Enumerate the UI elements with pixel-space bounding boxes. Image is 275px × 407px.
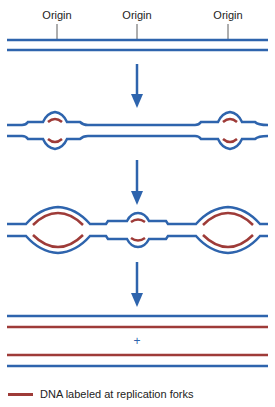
legend: DNA labeled at replication forks: [8, 388, 193, 400]
labeled-strand: [33, 235, 83, 247]
origin-label-1: Origin: [42, 9, 71, 21]
labeled-strand: [33, 213, 83, 225]
labeled-strand: [223, 139, 237, 142]
arrow-down-icon: [131, 262, 143, 307]
origin-label-3: Origin: [213, 9, 242, 21]
stage-elongation: [7, 207, 268, 253]
arrow-down-icon: [131, 160, 143, 205]
labeled-strand: [203, 213, 253, 225]
plus-separator: +: [133, 334, 140, 348]
stage-completion: +: [7, 316, 268, 366]
stage-unreplicated: Origin Origin Origin: [7, 9, 268, 50]
stage-initiation: [7, 112, 268, 149]
legend-swatch-labeled-dna: [8, 393, 33, 396]
origin-label-2: Origin: [122, 9, 151, 21]
legend-label: DNA labeled at replication forks: [40, 388, 193, 400]
labeled-strand: [48, 119, 62, 122]
dna-replication-diagram: Origin Origin Origin: [0, 0, 275, 407]
labeled-strand: [48, 139, 62, 142]
labeled-strand: [203, 235, 253, 247]
arrow-down-icon: [131, 64, 143, 108]
labeled-strand: [131, 238, 145, 241]
labeled-strand: [223, 119, 237, 122]
labeled-strand: [131, 220, 145, 223]
